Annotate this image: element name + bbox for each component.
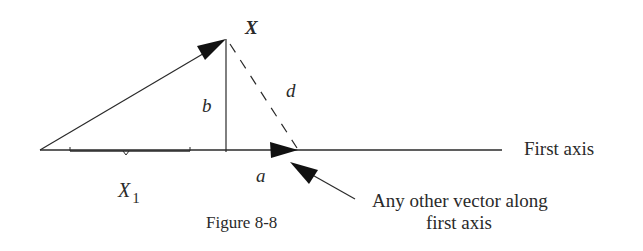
vector-a-arrowhead bbox=[270, 142, 298, 158]
label-x1: X1 bbox=[117, 179, 140, 206]
label-a: a bbox=[256, 165, 266, 186]
figure-8-8-diagram: X b d a X1 First axis Any other vector a… bbox=[0, 0, 643, 251]
label-first-axis: First axis bbox=[524, 138, 594, 159]
label-d: d bbox=[286, 80, 296, 101]
annotation-pointer-arrowhead bbox=[290, 162, 318, 184]
figure-caption: Figure 8-8 bbox=[206, 213, 277, 232]
label-vector-x: X bbox=[244, 17, 259, 38]
label-b: b bbox=[202, 95, 212, 116]
vector-x-arrowhead bbox=[197, 39, 226, 60]
label-x1-subscript: 1 bbox=[132, 190, 140, 206]
annotation-text-line2: first axis bbox=[426, 212, 492, 233]
annotation-text-line1: Any other vector along bbox=[372, 190, 548, 211]
vector-x-line bbox=[40, 45, 218, 150]
